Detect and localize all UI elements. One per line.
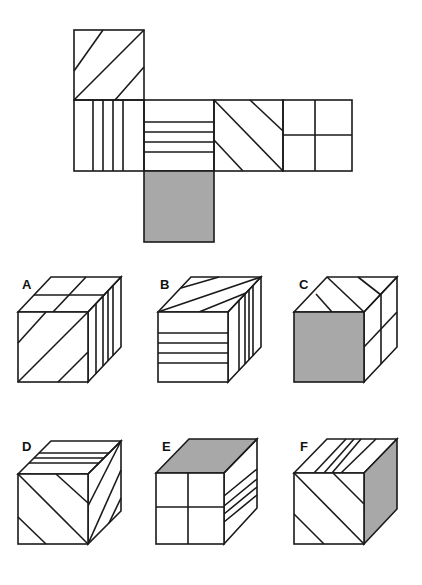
net-face-center (144, 100, 214, 171)
net-face-bottom (144, 171, 214, 242)
option-cube-a[interactable] (18, 277, 121, 382)
option-label-b: B (160, 277, 169, 292)
option-cube-d[interactable] (18, 441, 121, 544)
option-label-d: D (22, 439, 31, 454)
net-face-far-right (283, 100, 352, 171)
option-cube-e[interactable] (156, 439, 257, 544)
net-face-right (214, 100, 283, 171)
option-cube-b[interactable] (158, 277, 261, 382)
net-face-left (74, 100, 144, 171)
option-label-a: A (22, 277, 31, 292)
cube-net (74, 30, 352, 242)
net-face-top (74, 30, 144, 100)
option-label-c: C (299, 277, 308, 292)
option-cube-f[interactable] (294, 439, 397, 544)
option-label-e: E (162, 439, 171, 454)
cube-puzzle-canvas (0, 0, 422, 585)
option-cube-c[interactable] (294, 277, 397, 382)
option-label-f: F (300, 439, 308, 454)
